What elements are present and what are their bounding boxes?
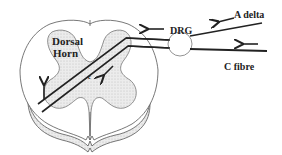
label-synapse: c (88, 74, 91, 80)
label-drg: DRG (170, 25, 192, 36)
c-fibre (190, 49, 267, 51)
label-horn: Horn (53, 47, 78, 59)
pain-pathway-diagram: Dorsal Horn DRG A delta C fibre c (0, 0, 282, 155)
label-dorsal: Dorsal (52, 35, 83, 47)
label-a-delta: A delta (234, 9, 264, 20)
arrow-a-delta-icon (218, 18, 234, 22)
a-delta-fibre (190, 23, 262, 36)
label-c-fibre: C fibre (224, 61, 255, 72)
